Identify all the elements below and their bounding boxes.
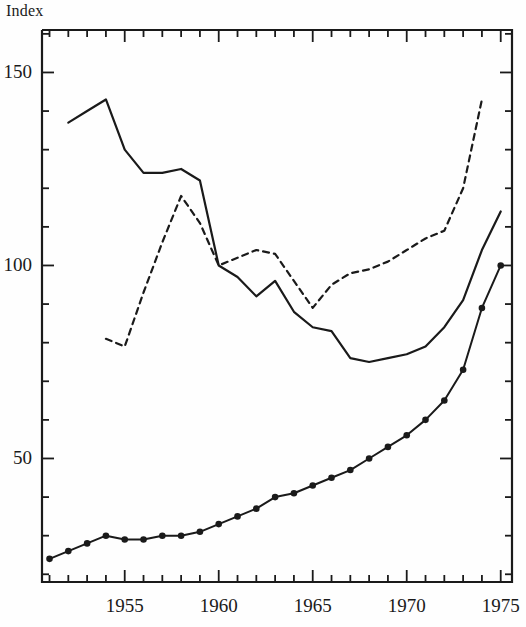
data-point-marker [178,532,185,539]
data-point-marker [366,455,373,462]
data-point-marker [479,305,486,312]
data-point-marker [65,548,72,555]
x-tick-label: 1965 [294,595,332,617]
data-point-marker [441,397,448,404]
y-tick-label: 150 [4,61,33,83]
data-point-marker [422,417,429,424]
data-point-marker [460,366,467,373]
data-point-marker [121,536,128,543]
x-tick-label: 1970 [388,595,426,617]
series-line-dashed [106,99,482,346]
chart-figure: Index 50100150 19551960196519701975 [0,0,526,627]
data-point-marker [215,521,222,528]
data-point-marker [347,467,354,474]
data-point-marker [403,432,410,439]
data-point-marker [291,490,298,497]
data-point-marker [140,536,147,543]
data-point-marker [328,474,335,481]
data-point-marker [385,444,392,451]
data-point-marker [197,529,204,536]
data-point-marker [272,494,279,501]
data-point-marker [253,505,260,512]
series-line-solid-with-markers [50,265,501,558]
y-tick-label: 100 [4,254,33,276]
data-point-marker [234,513,241,520]
x-tick-label: 1960 [200,595,238,617]
data-point-marker [103,532,110,539]
data-point-marker [497,262,504,269]
data-point-marker [84,540,91,547]
y-tick-label: 50 [13,447,32,469]
data-point-marker [309,482,316,489]
data-point-marker [46,556,53,563]
chart-plot-area [0,0,526,627]
x-tick-label: 1975 [482,595,520,617]
data-point-marker [159,532,166,539]
x-tick-label: 1955 [106,595,144,617]
data-series-group [46,99,504,562]
